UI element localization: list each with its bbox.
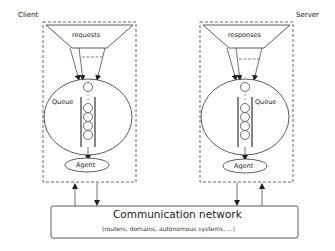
client-agent-label: Agent xyxy=(76,161,95,169)
queue-item-circle xyxy=(84,131,93,140)
client-request-arrow xyxy=(79,48,83,80)
queue-item-circle xyxy=(241,83,250,92)
server-response-arrow xyxy=(236,48,240,80)
queue-item-circle xyxy=(84,122,93,131)
client-request-arrow xyxy=(97,48,105,80)
client-queue-label: Queue xyxy=(52,98,73,106)
queue-item-circle xyxy=(241,113,250,122)
queue-item-circle xyxy=(84,113,93,122)
server-responses-label: responses xyxy=(228,31,261,39)
server-group xyxy=(200,22,293,182)
client-label: Client xyxy=(18,11,38,19)
queue-item-circle xyxy=(84,83,93,92)
ellipsis-dot xyxy=(87,94,88,95)
server-label: Server xyxy=(296,11,319,19)
ellipsis-dot xyxy=(244,98,245,99)
queue-item-circle xyxy=(241,122,250,131)
queue-item-circle xyxy=(241,104,250,113)
ellipsis-dot xyxy=(244,94,245,95)
client-requests-label: requests xyxy=(72,31,100,39)
server-response-arrow xyxy=(227,48,236,80)
network-subtitle: (routers, domains, autonomous systems, .… xyxy=(102,225,235,232)
server-agent-label: Agent xyxy=(234,162,253,170)
network-title: Communication network xyxy=(113,208,242,220)
client-request-arrow xyxy=(70,48,79,80)
server-response-arrow xyxy=(254,48,262,80)
server-queue-label: Queue xyxy=(255,98,276,106)
queue-item-circle xyxy=(84,104,93,113)
ellipsis-dot xyxy=(87,98,88,99)
queue-item-circle xyxy=(241,131,250,140)
